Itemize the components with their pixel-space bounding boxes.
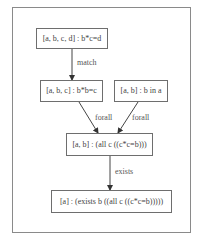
edge-label-forall-right: forall	[132, 114, 149, 122]
node-b-c-d: [a, b, c, d] : b*c=d	[36, 28, 108, 49]
node-exists-b: [a] : (exists b ((all c ((c*c=b)))))	[51, 190, 172, 213]
node-label: [a, b] : b in a	[121, 87, 162, 95]
node-label: [a, b, c, d] : b*c=d	[43, 35, 102, 43]
node-b-in-a: [a, b] : b in a	[114, 80, 168, 102]
node-label: [a, b, c] : b*b=c	[46, 87, 97, 95]
node-label: [a, b] : (all c ((c*c=b)))	[72, 141, 146, 149]
node-b-b-c: [a, b, c] : b*b=c	[40, 80, 103, 102]
edge-label-match: match	[77, 59, 97, 67]
edge-label-exists: exists	[115, 168, 133, 176]
node-label: [a] : (exists b ((all c ((c*c=b)))))	[60, 198, 163, 206]
edge-label-forall-left: forall	[95, 114, 112, 122]
node-all-c: [a, b] : (all c ((c*c=b)))	[66, 133, 153, 156]
